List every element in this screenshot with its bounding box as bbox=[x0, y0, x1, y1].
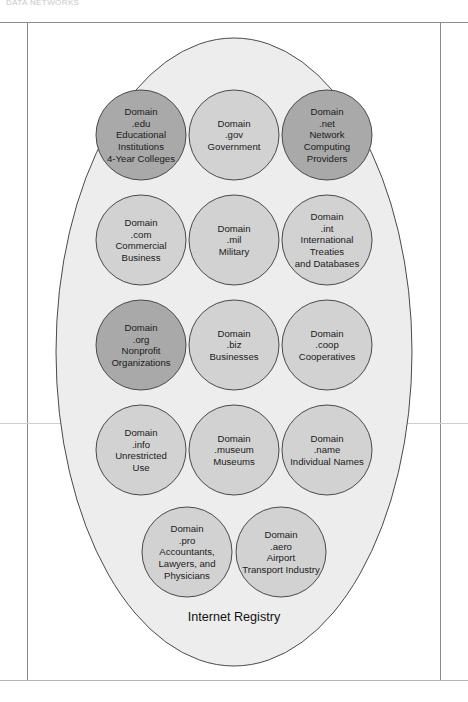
domain-node-edu: Domain.eduEducationalInstitutions4-Year … bbox=[96, 90, 186, 180]
domain-node-int: Domain.intInternationalTreatiesand Datab… bbox=[282, 195, 372, 285]
internet-registry-label: Internet Registry bbox=[188, 610, 281, 624]
domain-node-aero: Domain.aeroAirportTransport Industry bbox=[236, 507, 326, 597]
domain-node-net: Domain.netNetworkComputingProviders bbox=[282, 90, 372, 180]
domain-node-pro: Domain.proAccountants,Lawyers, andPhysic… bbox=[142, 507, 232, 597]
diagram-svg: Domain.eduEducationalInstitutions4-Year … bbox=[28, 24, 440, 679]
page-rule-top bbox=[0, 22, 468, 23]
internet-registry-figure: Domain.eduEducationalInstitutions4-Year … bbox=[28, 24, 440, 679]
page-rule-bottom bbox=[0, 680, 468, 681]
page-border-right bbox=[440, 23, 441, 680]
page-canvas: DATA NETWORKS Domain.eduEducationalInsti… bbox=[0, 0, 468, 702]
domain-node-mil: Domain.milMilitary bbox=[189, 195, 279, 285]
domain-node-info: Domain.infoUnrestrictedUse bbox=[96, 405, 186, 495]
domain-label-net: Domain.netNetworkComputingProviders bbox=[304, 106, 350, 163]
domain-node-coop: Domain.coopCooperatives bbox=[282, 300, 372, 390]
running-head: DATA NETWORKS bbox=[6, 0, 79, 8]
domain-node-biz: Domain.bizBusinesses bbox=[189, 300, 279, 390]
domain-node-museum: Domain.museumMuseums bbox=[189, 405, 279, 495]
domain-node-com: Domain.comCommercialBusiness bbox=[96, 195, 186, 285]
domain-node-org: Domain.orgNonprofitOrganizations bbox=[96, 300, 186, 390]
domain-node-name: Domain.nameIndividual Names bbox=[282, 405, 372, 495]
domain-node-gov: Domain.govGovernment bbox=[189, 90, 279, 180]
domain-label-museum: Domain.museumMuseums bbox=[213, 433, 255, 467]
